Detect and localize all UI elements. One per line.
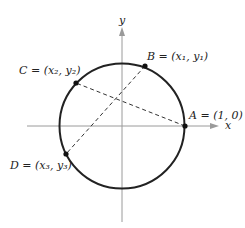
point-b — [142, 63, 147, 68]
point-a-label: A = (1, 0) — [189, 110, 243, 121]
point-a — [182, 123, 187, 128]
point-d — [63, 151, 68, 156]
x-axis-arrow-icon — [210, 123, 219, 129]
point-b-label: B = (x₁, y₁) — [147, 51, 208, 62]
point-c-label: C = (x₂, y₂) — [19, 65, 80, 76]
chord-bd — [66, 66, 145, 154]
point-d-label: D = (x₃, y₃) — [10, 160, 72, 171]
y-axis-arrow-icon — [119, 27, 125, 36]
y-axis-label: y — [119, 15, 125, 26]
chord-ac — [76, 83, 185, 126]
point-c — [73, 80, 78, 85]
